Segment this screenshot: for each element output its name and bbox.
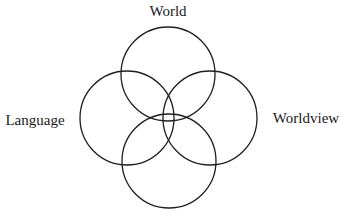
- label-language: Language: [5, 112, 64, 128]
- label-world: World: [149, 3, 187, 19]
- circle-top: [121, 27, 215, 121]
- label-worldview: Worldview: [273, 110, 339, 126]
- circle-right: [163, 71, 257, 165]
- circle-group: [80, 27, 257, 208]
- circle-left: [80, 71, 174, 165]
- venn-diagram: World Language Worldview: [0, 0, 344, 223]
- circle-bottom: [122, 114, 216, 208]
